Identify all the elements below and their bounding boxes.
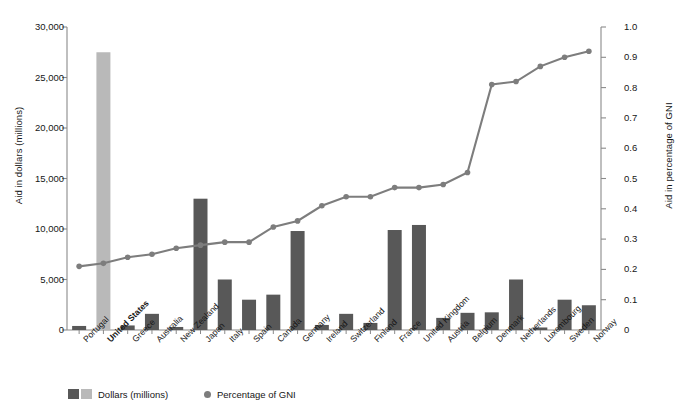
- bar-united-states: [96, 52, 110, 330]
- y-axis-right-tick-label: 0: [624, 324, 629, 335]
- legend-dot-gni: [204, 391, 211, 398]
- y-axis-left-tick-label: 25,000: [18, 72, 64, 83]
- gni-point-new-zealand: [173, 245, 179, 251]
- gni-point-switzerland: [343, 194, 349, 200]
- gni-point-japan: [198, 242, 204, 248]
- legend-label-gni: Percentage of GNI: [217, 389, 296, 400]
- y-axis-right-tick-label: 0.8: [624, 82, 637, 93]
- gni-point-ireland: [319, 203, 325, 209]
- gni-point-germany: [295, 218, 301, 224]
- y-axis-left-tick-label: 0: [18, 324, 64, 335]
- bar-spain: [242, 300, 256, 330]
- bar-portugal: [72, 326, 86, 330]
- y-axis-left-title: Aid in dollars (millions): [13, 81, 24, 231]
- gni-point-sweden: [562, 55, 568, 61]
- gni-point-netherlands: [513, 79, 519, 85]
- legend-item-dollars[interactable]: Dollars (millions): [68, 389, 168, 400]
- gni-point-united-kingdom: [416, 185, 422, 191]
- y-axis-left-tick-label: 15,000: [18, 173, 64, 184]
- gni-point-france: [392, 185, 398, 191]
- gni-point-luxembourg: [538, 64, 544, 70]
- y-axis-right-tick-label: 0.1: [624, 294, 637, 305]
- gni-point-portugal: [76, 264, 82, 270]
- gni-point-united-states: [101, 261, 107, 267]
- y-axis-right-tick-label: 1.0: [624, 21, 637, 32]
- bar-germany: [291, 231, 305, 330]
- gni-point-italy: [222, 239, 228, 245]
- y-axis-right-tick-label: 0.9: [624, 51, 637, 62]
- y-axis-right-tick-label: 0.4: [624, 203, 637, 214]
- legend-item-gni[interactable]: Percentage of GNI: [204, 389, 296, 400]
- gni-point-denmark: [489, 82, 495, 88]
- y-axis-left-tick-label: 10,000: [18, 223, 64, 234]
- gni-point-australia: [149, 251, 155, 257]
- gni-point-austria: [440, 182, 446, 188]
- gni-point-norway: [586, 48, 592, 54]
- y-axis-right-tick-label: 0.5: [624, 173, 637, 184]
- gni-line: [79, 51, 589, 266]
- y-axis-right-tick-label: 0.3: [624, 233, 637, 244]
- y-axis-left-tick-label: 5,000: [18, 274, 64, 285]
- y-axis-right-tick-label: 0.7: [624, 112, 637, 123]
- chart-plot-area: [0, 0, 679, 420]
- y-axis-right-title: Aid in percentage of GNI: [663, 81, 674, 231]
- bar-united-kingdom: [412, 225, 426, 330]
- legend-label-dollars: Dollars (millions): [98, 389, 168, 400]
- legend-swatch-dark: [68, 389, 79, 399]
- gni-point-finland: [368, 194, 374, 200]
- bar-france: [388, 230, 402, 330]
- chart-container: Aid in dollars (millions) Aid in percent…: [0, 0, 679, 420]
- y-axis-right-tick-label: 0.6: [624, 142, 637, 153]
- gni-point-spain: [246, 239, 252, 245]
- gni-point-canada: [271, 224, 277, 230]
- gni-point-belgium: [465, 170, 471, 176]
- y-axis-right-tick-label: 0.2: [624, 263, 637, 274]
- y-axis-left-tick-label: 30,000: [18, 21, 64, 32]
- legend-swatch-light: [81, 389, 92, 399]
- y-axis-left-tick-label: 20,000: [18, 122, 64, 133]
- gni-point-greece: [125, 254, 131, 260]
